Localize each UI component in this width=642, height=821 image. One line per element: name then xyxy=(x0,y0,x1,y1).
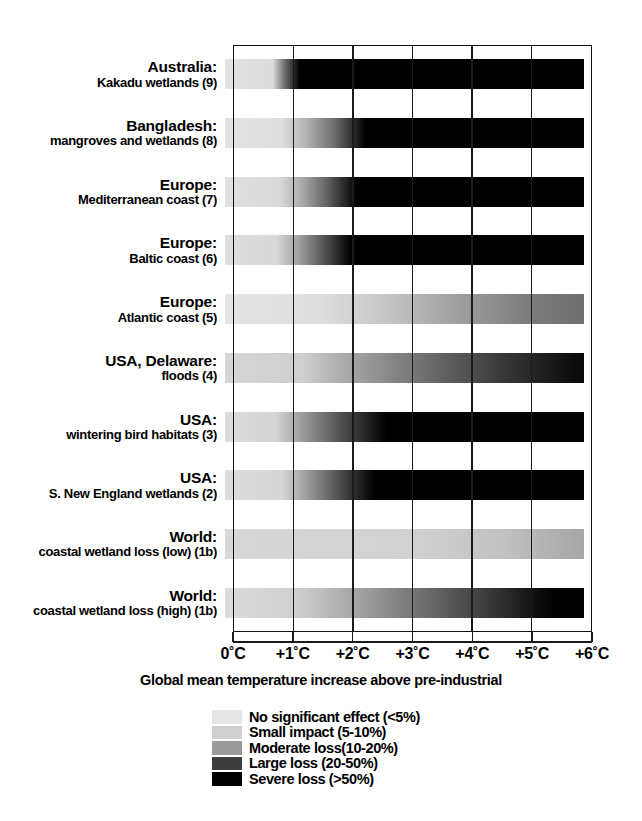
ember-band xyxy=(225,59,584,89)
legend-item: Moderate loss(10-20%) xyxy=(212,740,512,756)
ember-band xyxy=(225,235,584,265)
ember-band xyxy=(225,470,584,500)
row-label-line2: floods (4) xyxy=(0,369,217,384)
legend-item: Large loss (20-50%) xyxy=(212,756,512,772)
legend-swatch xyxy=(212,710,242,724)
row-band-wrapper xyxy=(225,45,584,104)
ember-band xyxy=(225,177,584,207)
chart-row: USA:wintering bird habitats (3) xyxy=(0,397,642,456)
axis-tick-label: +4˚C xyxy=(455,645,489,663)
row-band-wrapper xyxy=(225,280,584,339)
row-label-line2: Mediterranean coast (7) xyxy=(0,193,217,208)
legend-swatch xyxy=(212,726,242,740)
row-label-line2: coastal wetland loss (low) (1b) xyxy=(0,545,217,560)
row-label-line2: Kakadu wetlands (9) xyxy=(0,76,217,91)
row-band-wrapper xyxy=(225,339,584,398)
legend-swatch xyxy=(212,772,242,786)
chart-row: Australia:Kakadu wetlands (9) xyxy=(0,45,642,104)
ember-band xyxy=(225,118,584,148)
chart-row: USA:S. New England wetlands (2) xyxy=(0,456,642,515)
legend-label: Severe loss (>50%) xyxy=(249,772,374,787)
ember-band xyxy=(225,353,584,383)
row-label-line1: Australia: xyxy=(0,58,217,75)
row-label-line1: USA: xyxy=(0,411,217,428)
axis-baseline xyxy=(233,641,592,643)
burning-embers-figure: Australia:Kakadu wetlands (9)Bangladesh:… xyxy=(0,0,642,821)
row-label-line2: wintering bird habitats (3) xyxy=(0,428,217,443)
row-label: Europe:Mediterranean coast (7) xyxy=(0,176,225,208)
chart-row: World:coastal wetland loss (high) (1b) xyxy=(0,573,642,632)
row-label: Europe:Atlantic coast (5) xyxy=(0,293,225,325)
axis-tick-label: +5˚C xyxy=(515,645,549,663)
ember-band xyxy=(225,294,584,324)
row-label-line1: USA, Delaware: xyxy=(0,352,217,369)
legend-label: Large loss (20-50%) xyxy=(249,756,378,771)
chart-rows: Australia:Kakadu wetlands (9)Bangladesh:… xyxy=(0,45,642,632)
row-label-line2: mangroves and wetlands (8) xyxy=(0,134,217,149)
row-label: World:coastal wetland loss (high) (1b) xyxy=(0,587,225,619)
chart-row: Europe:Baltic coast (6) xyxy=(0,221,642,280)
row-label: USA:wintering bird habitats (3) xyxy=(0,411,225,443)
legend-label: No significant effect (<5%) xyxy=(249,710,420,725)
ember-band xyxy=(225,412,584,442)
chart-row: Europe:Atlantic coast (5) xyxy=(0,280,642,339)
row-band-wrapper xyxy=(225,397,584,456)
row-label: Australia:Kakadu wetlands (9) xyxy=(0,58,225,90)
chart-row: Europe:Mediterranean coast (7) xyxy=(0,162,642,221)
row-label: World:coastal wetland loss (low) (1b) xyxy=(0,528,225,560)
legend-item: Small impact (5-10%) xyxy=(212,725,512,741)
legend-swatch xyxy=(212,741,242,755)
row-label: Bangladesh:mangroves and wetlands (8) xyxy=(0,117,225,149)
row-label-line1: Europe: xyxy=(0,176,217,193)
row-label: Europe:Baltic coast (6) xyxy=(0,234,225,266)
row-label-line2: Baltic coast (6) xyxy=(0,252,217,267)
row-band-wrapper xyxy=(225,515,584,574)
axis-title: Global mean temperature increase above p… xyxy=(0,672,642,688)
legend-swatch xyxy=(212,757,242,771)
chart-row: World:coastal wetland loss (low) (1b) xyxy=(0,515,642,574)
axis-tick-label: +2˚C xyxy=(336,645,370,663)
legend-item: Severe loss (>50%) xyxy=(212,771,512,787)
ember-band xyxy=(225,588,584,618)
row-label: USA, Delaware:floods (4) xyxy=(0,352,225,384)
axis-tick-label: 0˚C xyxy=(221,645,246,663)
row-label-line1: Bangladesh: xyxy=(0,117,217,134)
row-label: USA:S. New England wetlands (2) xyxy=(0,469,225,501)
row-label-line2: S. New England wetlands (2) xyxy=(0,487,217,502)
axis-tick-labels: 0˚C+1˚C+2˚C+3˚C+4˚C+5˚C+6˚C xyxy=(233,645,592,669)
row-band-wrapper xyxy=(225,162,584,221)
legend-label: Small impact (5-10%) xyxy=(249,725,386,740)
row-band-wrapper xyxy=(225,456,584,515)
legend-label: Moderate loss(10-20%) xyxy=(249,741,398,756)
row-band-wrapper xyxy=(225,104,584,163)
row-label-line2: coastal wetland loss (high) (1b) xyxy=(0,604,217,619)
row-band-wrapper xyxy=(225,573,584,632)
row-label-line2: Atlantic coast (5) xyxy=(0,311,217,326)
row-band-wrapper xyxy=(225,221,584,280)
legend-item: No significant effect (<5%) xyxy=(212,709,512,725)
axis-tick-label: +1˚C xyxy=(276,645,310,663)
row-label-line1: World: xyxy=(0,528,217,545)
axis-tick-label: +6˚C xyxy=(575,645,609,663)
chart-row: Bangladesh:mangroves and wetlands (8) xyxy=(0,104,642,163)
chart-row: USA, Delaware:floods (4) xyxy=(0,339,642,398)
ember-band xyxy=(225,529,584,559)
row-label-line1: World: xyxy=(0,587,217,604)
axis-tick-label: +3˚C xyxy=(396,645,430,663)
row-label-line1: USA: xyxy=(0,469,217,486)
legend: No significant effect (<5%)Small impact … xyxy=(212,709,512,787)
row-label-line1: Europe: xyxy=(0,234,217,251)
row-label-line1: Europe: xyxy=(0,293,217,310)
